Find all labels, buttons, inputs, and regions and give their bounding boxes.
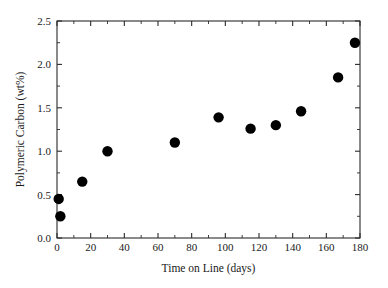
x-tick-label: 0 bbox=[54, 241, 60, 253]
scatter-plot: 020406080100120140160180 0.00.51.01.52.0… bbox=[0, 0, 388, 288]
x-tick-label: 140 bbox=[284, 241, 301, 253]
data-point bbox=[296, 106, 306, 116]
y-tick-label: 2.0 bbox=[37, 58, 51, 70]
x-tick-label: 160 bbox=[318, 241, 335, 253]
y-axis-major-ticks bbox=[57, 21, 360, 238]
x-tick-label: 100 bbox=[217, 241, 234, 253]
chart-figure: 020406080100120140160180 0.00.51.01.52.0… bbox=[0, 0, 388, 288]
data-point bbox=[102, 146, 112, 156]
y-axis-title: Polymeric Carbon (wt%) bbox=[14, 72, 27, 188]
x-tick-label: 40 bbox=[119, 241, 131, 253]
plot-frame bbox=[57, 21, 360, 238]
x-tick-label: 60 bbox=[153, 241, 165, 253]
y-tick-label: 2.5 bbox=[37, 15, 51, 27]
data-point bbox=[55, 211, 65, 221]
x-tick-label: 180 bbox=[352, 241, 369, 253]
x-tick-label: 20 bbox=[85, 241, 97, 253]
x-tick-label: 120 bbox=[251, 241, 268, 253]
x-axis-major-ticks bbox=[57, 21, 360, 238]
data-point bbox=[333, 72, 343, 82]
data-point bbox=[170, 137, 180, 147]
x-axis-title: Time on Line (days) bbox=[162, 262, 256, 275]
x-axis-minor-ticks bbox=[74, 21, 343, 238]
data-point bbox=[213, 112, 223, 122]
data-point bbox=[271, 120, 281, 130]
data-point bbox=[53, 194, 63, 204]
x-tick-label: 80 bbox=[186, 241, 198, 253]
y-tick-label: 0.5 bbox=[37, 189, 51, 201]
y-tick-label: 1.5 bbox=[37, 102, 51, 114]
y-tick-label: 0.0 bbox=[37, 232, 51, 244]
y-tick-label: 1.0 bbox=[37, 145, 51, 157]
y-axis-tick-labels: 0.00.51.01.52.02.5 bbox=[37, 15, 51, 244]
data-point bbox=[350, 38, 360, 48]
data-point bbox=[245, 123, 255, 133]
x-axis-tick-labels: 020406080100120140160180 bbox=[54, 241, 369, 253]
data-point-group bbox=[53, 38, 360, 222]
y-axis-minor-ticks bbox=[57, 43, 360, 217]
data-point bbox=[77, 176, 87, 186]
